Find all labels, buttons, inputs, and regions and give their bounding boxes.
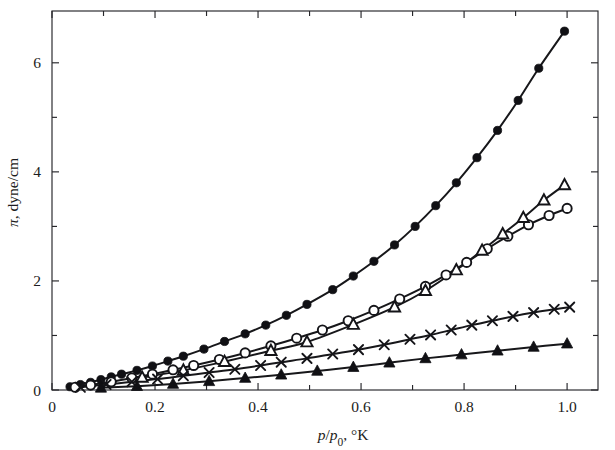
marker-filled-circle [200, 345, 208, 353]
marker-filled-triangle [562, 338, 573, 348]
marker-open-circle [189, 361, 198, 370]
marker-filled-circle [117, 370, 125, 378]
chart-plot-area: 00.20.40.60.81.00246p/p0, °Kπ, dyne/cm [0, 0, 615, 450]
marker-filled-circle [452, 179, 460, 187]
marker-filled-circle [349, 272, 357, 280]
marker-open-circle [318, 325, 327, 334]
marker-filled-circle [411, 222, 419, 230]
marker-open-circle [241, 348, 250, 357]
marker-filled-circle [303, 300, 311, 308]
marker-filled-circle [262, 321, 270, 329]
x-tick-label: 0.6 [351, 398, 371, 415]
marker-open-triangle [559, 179, 570, 189]
marker-filled-circle [432, 202, 440, 210]
y-tick-label: 2 [33, 272, 41, 289]
y-tick-label: 0 [33, 382, 41, 399]
marker-filled-circle [514, 96, 522, 104]
x-tick-label: 1.0 [557, 398, 577, 415]
marker-filled-circle [560, 27, 568, 35]
marker-filled-circle [493, 126, 501, 134]
x-tick-label: 0.8 [454, 398, 474, 415]
x-tick-label: 0.2 [145, 398, 164, 415]
x-tick-label: 0 [48, 398, 56, 415]
marker-open-circle [168, 365, 177, 374]
y-axis-title: π, dyne/cm [4, 158, 21, 227]
marker-filled-circle [282, 311, 290, 319]
marker-filled-circle [179, 352, 187, 360]
x-tick-label: 0.4 [248, 398, 268, 415]
marker-filled-circle [220, 337, 228, 345]
marker-open-circle [395, 294, 404, 303]
marker-filled-circle [329, 286, 337, 294]
y-tick-label: 6 [33, 54, 41, 71]
marker-filled-circle [390, 241, 398, 249]
marker-filled-circle [164, 357, 172, 365]
marker-open-circle [441, 270, 450, 279]
marker-open-circle [369, 306, 378, 315]
marker-open-circle [86, 380, 95, 389]
marker-open-triangle [538, 194, 549, 204]
series-curve-filled-circle [70, 31, 564, 387]
marker-open-circle [292, 334, 301, 343]
marker-filled-circle [370, 257, 378, 265]
y-tick-label: 4 [33, 163, 41, 180]
marker-open-circle [462, 258, 471, 267]
x-axis-title: p/p0, °K [317, 426, 370, 448]
marker-open-circle [544, 211, 553, 220]
marker-filled-circle [535, 64, 543, 72]
marker-filled-circle [241, 330, 249, 338]
marker-open-circle [562, 204, 571, 213]
series-curve-open-circle [75, 208, 567, 387]
chart-figure: 00.20.40.60.81.00246p/p0, °Kπ, dyne/cm [0, 0, 615, 450]
marker-filled-circle [473, 154, 481, 162]
